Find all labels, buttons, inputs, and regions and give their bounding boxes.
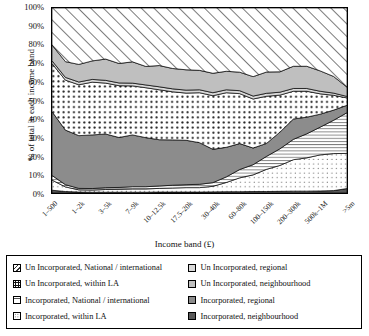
plot-svg (52, 8, 347, 193)
legend-swatch-icon (13, 296, 21, 304)
y-tick-label: 20% (10, 153, 44, 161)
legend-label: Un Incorporated, regional (200, 263, 287, 272)
x-axis-title: Income band (£) (0, 239, 369, 249)
y-tick-label: 60% (10, 78, 44, 86)
legend-swatch-icon (13, 312, 21, 320)
legend-label: Incorporated, neighbourhood (200, 312, 298, 321)
legend-item[interactable]: Incorporated, neighbourhood (188, 309, 359, 324)
legend-swatch-icon (188, 280, 196, 288)
y-axis-tick-labels: 0%10%20%30%40%50%60%70%80%90%100% (0, 0, 44, 200)
legend-label: Un Incorporated, within LA (25, 279, 119, 288)
y-tick-label: 10% (10, 171, 44, 179)
legend-label: Incorporated, National / international (25, 296, 150, 305)
y-tick-label: 0% (10, 190, 44, 198)
legend-label: Un Incorporated, neighbourhood (200, 279, 310, 288)
legend-item[interactable]: Incorporated, National / international (13, 293, 188, 308)
legend-item[interactable]: Un Incorporated, within LA (13, 276, 188, 291)
chart-legend: Un Incorporated, National / internationa… (6, 255, 362, 329)
legend-item[interactable]: Incorporated, within LA (13, 309, 188, 324)
legend-item[interactable]: Un Incorporated, neighbourhood (188, 276, 359, 291)
legend-swatch-icon (13, 264, 21, 272)
legend-item[interactable]: Incorporated, regional (188, 293, 359, 308)
plot-area (51, 7, 348, 194)
x-axis-tick-labels: 1–5001–2k3–5k7–9k10–12.5k17.5–20k30–40k6… (51, 196, 348, 244)
legend-item[interactable]: Un Incorporated, National / internationa… (13, 260, 188, 275)
legend-swatch-icon (188, 312, 196, 320)
y-tick-label: 50% (10, 97, 44, 105)
legend-item[interactable]: Un Incorporated, regional (188, 260, 359, 275)
legend-label: Incorporated, regional (200, 296, 274, 305)
legend-swatch-icon (188, 296, 196, 304)
legend-swatch-icon (13, 280, 21, 288)
y-tick-label: 90% (10, 22, 44, 30)
legend-swatch-icon (188, 264, 196, 272)
y-tick-label: 30% (10, 134, 44, 142)
y-tick-label: 40% (10, 115, 44, 123)
legend-column-right: Un Incorporated, regionalUn Incorporated… (188, 260, 359, 324)
stacked-area-chart: % of total in each income band 0%10%20%3… (0, 0, 369, 336)
legend-label: Un Incorporated, National / internationa… (25, 263, 162, 272)
y-tick-label: 100% (10, 3, 44, 11)
legend-label: Incorporated, within LA (25, 312, 107, 321)
y-tick-label: 80% (10, 40, 44, 48)
legend-column-left: Un Incorporated, National / internationa… (13, 260, 188, 324)
y-tick-label: 70% (10, 59, 44, 67)
